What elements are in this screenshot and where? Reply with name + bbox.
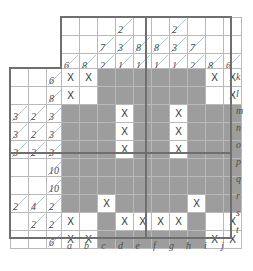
row-label-n: n: [236, 122, 248, 134]
column-label-a: a: [61, 240, 78, 252]
column-label-j: j: [214, 240, 231, 252]
row-label-k: k: [236, 71, 248, 83]
column-label-d: d: [112, 240, 129, 252]
nonogram-puzzle: 227388376821111286 683233233231010242226…: [0, 0, 253, 271]
row-label-r: r: [236, 190, 248, 202]
row-label-q: q: [236, 173, 248, 185]
row-label-m: m: [236, 105, 248, 117]
row-label-o: o: [236, 139, 248, 151]
column-label-f: f: [146, 240, 163, 252]
column-label-c: c: [95, 240, 112, 252]
row-label-s: s: [236, 207, 248, 219]
row-label-p: p: [236, 156, 248, 168]
column-label-i: i: [197, 240, 214, 252]
column-label-e: e: [129, 240, 146, 252]
column-label-g: g: [163, 240, 180, 252]
row-label-l: l: [236, 88, 248, 100]
row-label-t: t: [236, 224, 248, 236]
column-label-h: h: [180, 240, 197, 252]
column-label-b: b: [78, 240, 95, 252]
axis-label-layer: abcdefghijklmnopqrst: [0, 0, 253, 271]
